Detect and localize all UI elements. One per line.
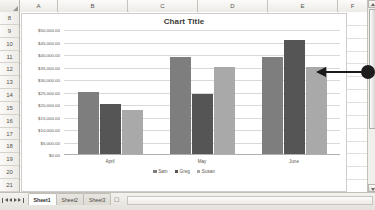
previous-sheet-icon[interactable] — [9, 198, 12, 202]
legend-item-greg[interactable]: Greg — [175, 169, 190, 174]
y-axis-tick-label: $30,000.00 — [38, 78, 60, 83]
x-axis-tick-label: June — [248, 157, 340, 167]
bar-sam-june[interactable] — [262, 57, 283, 155]
bar-susan-april[interactable] — [122, 110, 143, 154]
row-header-20[interactable]: 20 — [0, 166, 19, 179]
next-sheet-icon[interactable] — [14, 198, 17, 202]
bar-groups — [64, 30, 340, 154]
y-axis-tick-label: $50,000.00 — [38, 28, 60, 33]
row-header-11[interactable]: 11 — [0, 51, 19, 64]
y-axis-tick-label: $15,000.00 — [38, 115, 60, 120]
legend-item-sam[interactable]: Sam — [153, 169, 167, 174]
row-header-column: 89101112131415161718192021 — [0, 12, 20, 192]
scroll-thumb[interactable] — [369, 9, 375, 129]
bar-group-june — [248, 30, 340, 154]
bar-greg-may[interactable] — [192, 94, 213, 154]
column-header-E[interactable]: E — [268, 0, 338, 12]
plot-area[interactable] — [64, 30, 340, 155]
x-axis-tick-label: April — [64, 157, 156, 167]
horizontal-scrollbar[interactable] — [127, 196, 373, 205]
column-header-C[interactable]: C — [128, 0, 198, 12]
bar-susan-may[interactable] — [214, 67, 235, 155]
y-axis-tick-label: $20,000.00 — [38, 103, 60, 108]
y-axis-tick-label: $10,000.00 — [38, 128, 60, 133]
column-header-B[interactable]: B — [58, 0, 128, 12]
legend-swatch-icon — [197, 170, 201, 174]
insert-worksheet-icon[interactable]: ☐ — [110, 193, 123, 205]
legend-label: Sam — [158, 169, 167, 174]
bar-greg-june[interactable] — [284, 40, 305, 154]
chart-title: Chart Title — [22, 17, 346, 26]
legend-label: Greg — [180, 169, 190, 174]
vertical-scrollbar[interactable] — [367, 0, 375, 192]
row-header-10[interactable]: 10 — [0, 38, 19, 51]
y-axis-tick-label: $35,000.00 — [38, 65, 60, 70]
legend-swatch-icon — [153, 170, 157, 174]
x-axis-tick-label: May — [156, 157, 248, 167]
bar-greg-april[interactable] — [100, 104, 121, 154]
legend-label: Susan — [202, 169, 215, 174]
row-header-15[interactable]: 15 — [0, 102, 19, 115]
sheet-navigation-arrows[interactable] — [0, 193, 26, 204]
legend-swatch-icon — [175, 170, 179, 174]
scroll-up-arrow-icon — [371, 3, 375, 6]
row-header-12[interactable]: 12 — [0, 63, 19, 76]
first-sheet-bar-icon — [2, 198, 3, 203]
row-header-14[interactable]: 14 — [0, 89, 19, 102]
bar-sam-may[interactable] — [170, 57, 191, 155]
bar-group-may — [156, 30, 248, 154]
column-header-row: ABCDEF — [0, 0, 375, 12]
y-axis-tick-label: $0.00 — [49, 153, 60, 158]
y-axis-tick-label: $45,000.00 — [38, 40, 60, 45]
row-header-17[interactable]: 17 — [0, 128, 19, 141]
row-header-21[interactable]: 21 — [0, 179, 19, 192]
bar-sam-april[interactable] — [78, 92, 99, 155]
chart-legend[interactable]: SamGregSusan — [22, 169, 346, 174]
bar-susan-june[interactable] — [306, 67, 327, 155]
y-axis-tick-label: $5,000.00 — [40, 140, 60, 145]
column-header-D[interactable]: D — [198, 0, 268, 12]
sheet-tab-bar: Sheet1Sheet2Sheet3 ☐ — [0, 192, 375, 210]
y-axis-tick-label: $25,000.00 — [38, 90, 60, 95]
scroll-up-button[interactable] — [368, 0, 375, 8]
sheet-tabs[interactable]: Sheet1Sheet2Sheet3 — [28, 193, 111, 205]
select-all-corner[interactable] — [0, 0, 20, 12]
bar-group-april — [64, 30, 156, 154]
row-header-8[interactable]: 8 — [0, 12, 19, 25]
first-sheet-icon[interactable] — [5, 198, 8, 202]
row-header-18[interactable]: 18 — [0, 140, 19, 153]
sheet-tab-sheet3[interactable]: Sheet3 — [83, 193, 111, 205]
last-sheet-icon[interactable] — [18, 198, 21, 202]
legend-item-susan[interactable]: Susan — [197, 169, 215, 174]
x-axis-line — [64, 154, 340, 155]
last-sheet-bar-icon — [23, 198, 24, 203]
column-header-A[interactable]: A — [20, 0, 58, 12]
x-axis: AprilMayJune — [64, 157, 340, 167]
y-axis-tick-label: $40,000.00 — [38, 53, 60, 58]
y-axis: $0.00$5,000.00$10,000.00$15,000.00$20,00… — [22, 30, 62, 155]
chart-object[interactable]: Chart Title $0.00$5,000.00$10,000.00$15,… — [21, 13, 347, 192]
excel-worksheet-window: ABCDEF 89101112131415161718192021 Chart … — [0, 0, 375, 210]
scroll-down-button[interactable] — [368, 184, 375, 192]
sheet-tab-sheet1[interactable]: Sheet1 — [28, 193, 57, 205]
row-header-19[interactable]: 19 — [0, 153, 19, 166]
row-header-9[interactable]: 9 — [0, 25, 19, 38]
sheet-tab-sheet2[interactable]: Sheet2 — [56, 193, 84, 205]
column-header-F[interactable]: F — [338, 0, 368, 12]
row-header-13[interactable]: 13 — [0, 76, 19, 89]
scroll-down-arrow-icon — [371, 188, 375, 191]
row-header-16[interactable]: 16 — [0, 115, 19, 128]
